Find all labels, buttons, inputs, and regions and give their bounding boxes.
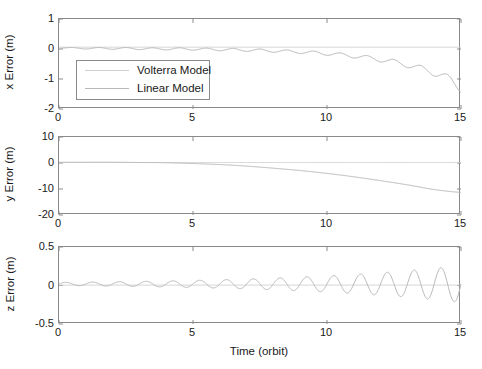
y-tick-label: 0 <box>16 279 54 290</box>
x-tick-label: 15 <box>454 327 466 338</box>
x-tick-label: 5 <box>189 327 195 338</box>
y-tick-label: -0.5 <box>16 318 54 329</box>
axes-box-z-error <box>58 246 460 323</box>
x-axis-label-time: Time (orbit) <box>58 345 460 357</box>
x-tick-label: 0 <box>55 327 61 338</box>
plot-area-z-error <box>59 247 461 324</box>
y-tick-label: 0.5 <box>16 241 54 252</box>
subplot-z-error: z Error (m) Time (orbit) 0.50-0.5051015 <box>0 0 482 369</box>
y-axis-label-z-error: z Error (m) <box>3 225 15 342</box>
x-tick-label: 10 <box>320 327 332 338</box>
